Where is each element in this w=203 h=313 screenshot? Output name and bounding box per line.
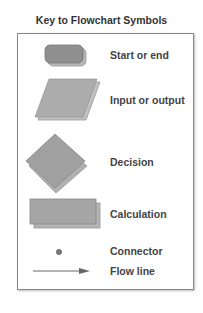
- symbols-canvas: [0, 0, 203, 313]
- decision-symbol: [26, 134, 87, 193]
- legend-label-decision: Decision: [110, 156, 154, 168]
- connector-symbol: [56, 249, 62, 255]
- flow-line-symbol: [33, 268, 90, 274]
- start-end-symbol: [45, 45, 86, 66]
- legend-label-input-output: Input or output: [110, 94, 185, 106]
- legend-label-flow-line: Flow line: [110, 265, 155, 277]
- legend-label-connector: Connector: [110, 245, 163, 257]
- calculation-symbol: [30, 199, 100, 228]
- legend-label-start-end: Start or end: [110, 49, 169, 61]
- input-output-symbol: [35, 79, 100, 120]
- legend-label-calculation: Calculation: [110, 208, 167, 220]
